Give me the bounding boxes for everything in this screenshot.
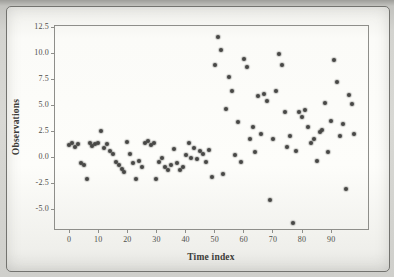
data-point [137, 159, 141, 163]
data-point [85, 177, 89, 181]
x-tick-mark [331, 230, 332, 233]
y-axis-title: Observations [11, 99, 21, 155]
data-point [99, 129, 103, 133]
data-point [320, 128, 324, 132]
data-point [350, 102, 354, 106]
data-point [265, 99, 269, 103]
x-tick-mark [127, 230, 128, 233]
data-point [210, 175, 214, 179]
data-point [274, 89, 278, 93]
x-tick-mark [272, 230, 273, 233]
data-point [288, 134, 292, 138]
data-point [157, 160, 161, 164]
x-tick-label: 90 [327, 236, 335, 244]
y-tick-mark [51, 157, 54, 158]
data-point [76, 142, 80, 146]
data-point [175, 161, 179, 165]
data-point [82, 163, 86, 167]
data-point [303, 108, 307, 112]
data-point [352, 132, 356, 136]
data-point [248, 137, 252, 141]
data-point [207, 148, 211, 152]
x-tick-label: 10 [94, 236, 102, 244]
x-tick-label: 0 [67, 236, 71, 244]
data-point [323, 101, 327, 105]
data-point [216, 35, 220, 39]
data-point [111, 152, 115, 156]
data-point [315, 159, 319, 163]
data-point [195, 157, 199, 161]
data-point [341, 122, 345, 126]
data-point [294, 149, 298, 153]
y-tick-label: -5.0 [25, 205, 49, 213]
x-tick-label: 70 [269, 236, 277, 244]
data-point [347, 93, 351, 97]
x-tick-label: 80 [298, 236, 306, 244]
data-point [189, 156, 193, 160]
x-tick-mark [69, 230, 70, 233]
y-tick-label: 7.5 [25, 75, 49, 83]
data-point [329, 119, 333, 123]
y-tick-label: 10.0 [25, 49, 49, 57]
data-point [306, 125, 310, 129]
y-tick-mark [51, 53, 54, 54]
data-point [204, 160, 208, 164]
data-point [268, 198, 272, 202]
data-point [271, 137, 275, 141]
data-point [128, 152, 132, 156]
x-tick-mark [98, 230, 99, 233]
data-point [285, 145, 289, 149]
x-tick-label: 40 [181, 236, 189, 244]
y-tick-mark [51, 27, 54, 28]
data-point [160, 156, 164, 160]
y-tick-mark [51, 209, 54, 210]
data-point [152, 141, 156, 145]
data-point [131, 161, 135, 165]
scanned-figure: 12.510.07.55.02.50.0-2.5-5.0010203040506… [0, 0, 394, 277]
y-tick-mark [51, 131, 54, 132]
y-tick-mark [51, 79, 54, 80]
data-point [169, 163, 173, 167]
data-point [259, 132, 263, 136]
y-tick-label: 5.0 [25, 101, 49, 109]
data-point [125, 140, 129, 144]
data-point [172, 147, 176, 151]
data-point [344, 187, 348, 191]
x-tick-mark [156, 230, 157, 233]
x-tick-mark [214, 230, 215, 233]
data-point [102, 146, 106, 150]
data-point [236, 120, 240, 124]
data-point [201, 152, 205, 156]
data-point [134, 177, 138, 181]
data-point [256, 94, 260, 98]
data-point [219, 48, 223, 52]
data-point [181, 165, 185, 169]
data-point [242, 57, 246, 61]
data-point [213, 63, 217, 67]
data-point [187, 141, 191, 145]
y-tick-mark [51, 183, 54, 184]
y-tick-label: 2.5 [25, 127, 49, 135]
data-point [335, 80, 339, 84]
data-point [224, 107, 228, 111]
x-tick-mark [185, 230, 186, 233]
data-point [239, 160, 243, 164]
y-tick-label: 12.5 [25, 23, 49, 31]
data-point [251, 125, 255, 129]
data-point [184, 153, 188, 157]
data-point [96, 141, 100, 145]
data-point [300, 115, 304, 119]
x-tick-mark [302, 230, 303, 233]
data-point [326, 150, 330, 154]
data-point [262, 92, 266, 96]
data-point [192, 146, 196, 150]
data-point [312, 137, 316, 141]
data-point [154, 177, 158, 181]
data-point [140, 165, 144, 169]
data-point [280, 63, 284, 67]
x-tick-label: 50 [210, 236, 218, 244]
x-axis-title: Time index [187, 252, 234, 262]
data-point [122, 170, 126, 174]
x-tick-label: 30 [152, 236, 160, 244]
y-tick-label: 0.0 [25, 153, 49, 161]
